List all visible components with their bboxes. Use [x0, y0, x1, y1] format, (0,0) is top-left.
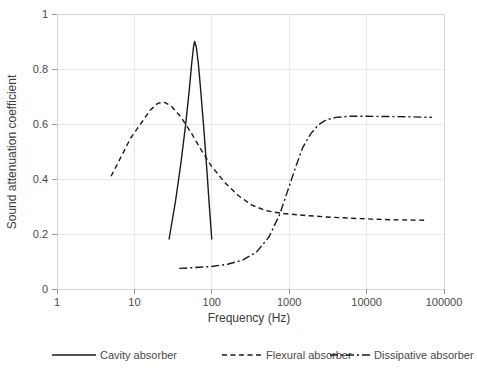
tickmarks [52, 14, 444, 294]
gridlines [57, 14, 444, 289]
series-line [179, 116, 432, 268]
x-tick-label: 10000 [351, 296, 382, 308]
x-tick-label: 100 [203, 296, 221, 308]
x-tick-label: 1000 [277, 296, 301, 308]
legend-label: Cavity absorber [100, 349, 177, 361]
y-tick-label: 1 [42, 8, 48, 20]
x-tick-label: 100000 [426, 296, 463, 308]
y-tick-label: 0.2 [33, 228, 48, 240]
y-tick-label: 0.8 [33, 63, 48, 75]
x-tick-label: 10 [128, 296, 140, 308]
y-tick-label: 0 [42, 283, 48, 295]
x-tick-labels: 110100100010000100000 [54, 296, 462, 308]
y-axis-title: Sound attenuation coefficient [5, 74, 19, 229]
y-tick-labels: 00.20.40.60.81 [33, 8, 48, 295]
x-axis-title: Frequency (Hz) [208, 311, 291, 325]
y-tick-label: 0.4 [33, 173, 48, 185]
series-line [111, 102, 427, 220]
chart-figure: 110100100010000100000 00.20.40.60.81 Fre… [0, 0, 477, 374]
series-line [169, 42, 212, 240]
legend-label: Dissipative absorber [374, 349, 474, 361]
plot-frame [57, 14, 444, 289]
x-tick-label: 1 [54, 296, 60, 308]
legend-label: Flexural absorber [266, 349, 352, 361]
chart-legend: Cavity absorberFlexural absorberDissipat… [52, 349, 474, 361]
y-tick-label: 0.6 [33, 118, 48, 130]
sound-attenuation-chart: 110100100010000100000 00.20.40.60.81 Fre… [0, 0, 477, 374]
